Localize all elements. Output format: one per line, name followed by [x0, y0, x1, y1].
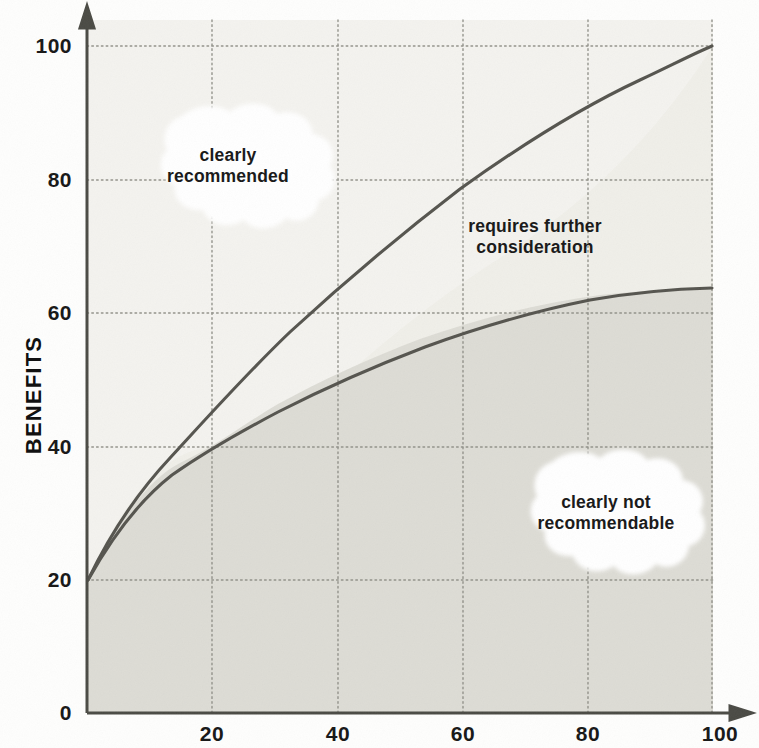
x-tick-label-60: 60: [433, 722, 493, 746]
y-tick-label-60: 60: [0, 301, 72, 325]
y-tick-label-100: 100: [0, 34, 72, 58]
y-tick-label-80: 80: [0, 168, 72, 192]
x-tick-label-100: 100: [690, 722, 750, 746]
x-tick-label-20: 20: [182, 722, 242, 746]
chart-container: 100 80 60 40 20 0 20 40 60 80 100 BENEFI…: [0, 0, 759, 748]
y-tick-label-20: 20: [0, 568, 72, 592]
y-tick-label-0: 0: [0, 701, 72, 725]
chart-canvas: [0, 0, 759, 748]
x-axis-arrow: [730, 706, 752, 720]
y-axis-arrow: [80, 6, 94, 28]
x-tick-label-40: 40: [308, 722, 368, 746]
x-tick-label-80: 80: [558, 722, 618, 746]
y-axis-title: BENEFITS: [21, 325, 47, 465]
